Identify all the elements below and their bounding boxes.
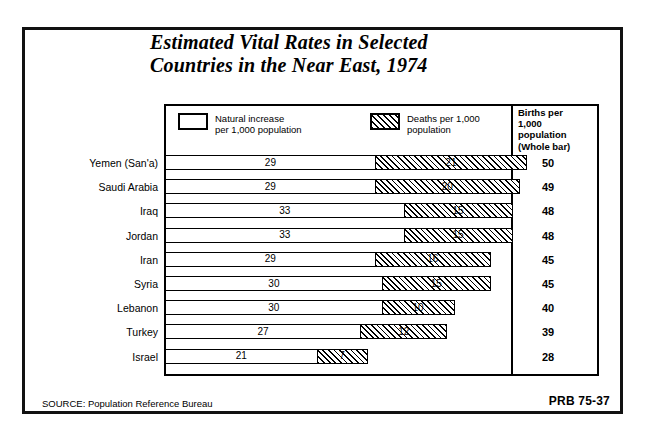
bar-segment-natural-increase: 29 — [166, 253, 375, 266]
bar-segment-deaths: 20 — [375, 180, 519, 193]
bar-value-natural-increase: 27 — [257, 327, 268, 337]
stacked-bar: 2916 — [165, 252, 491, 267]
births-value: 28 — [518, 346, 578, 368]
births-value: 48 — [518, 200, 578, 222]
bar-segment-natural-increase: 33 — [166, 229, 404, 242]
bar-segment-natural-increase: 29 — [166, 156, 375, 169]
stacked-bar: 3315 — [165, 203, 513, 218]
footer-source: SOURCE: Population Reference Bureau — [42, 398, 213, 409]
country-label: Syria — [55, 273, 158, 295]
bar-value-natural-increase: 29 — [265, 158, 276, 168]
bar-value-deaths: 21 — [444, 158, 457, 168]
bar-segment-deaths: 16 — [375, 253, 490, 266]
bar-value-natural-increase: 33 — [279, 206, 290, 216]
bar-value-natural-increase: 30 — [268, 303, 279, 313]
chart-rows: Yemen (San'a)292150Saudi Arabia292049Ira… — [0, 0, 647, 440]
bar-segment-deaths: 15 — [382, 277, 490, 290]
bar-value-natural-increase: 21 — [236, 351, 247, 361]
bar-value-deaths: 7 — [338, 351, 346, 361]
births-value: 48 — [518, 225, 578, 247]
footer-code: PRB 75-37 — [549, 394, 610, 408]
country-label: Iraq — [55, 200, 158, 222]
country-label: Israel — [55, 346, 158, 368]
bar-segment-natural-increase: 30 — [166, 301, 382, 314]
bar-segment-natural-increase: 33 — [166, 204, 404, 217]
bar-value-natural-increase: 33 — [279, 230, 290, 240]
bar-value-deaths: 15 — [451, 230, 464, 240]
stacked-bar: 2712 — [165, 324, 447, 339]
country-label: Iran — [55, 249, 158, 271]
bar-segment-deaths: 12 — [360, 325, 446, 338]
bar-value-deaths: 10 — [412, 303, 425, 313]
bar-value-deaths: 12 — [397, 327, 410, 337]
bar-segment-natural-increase: 27 — [166, 325, 360, 338]
bar-segment-deaths: 15 — [404, 229, 512, 242]
bar-value-deaths: 20 — [441, 182, 454, 192]
bar-value-natural-increase: 29 — [265, 182, 276, 192]
bar-value-natural-increase: 30 — [268, 279, 279, 289]
stacked-bar: 3315 — [165, 228, 513, 243]
stacked-bar: 3015 — [165, 276, 491, 291]
country-label: Saudi Arabia — [55, 176, 158, 198]
bar-segment-natural-increase: 21 — [166, 350, 317, 363]
country-label: Yemen (San'a) — [55, 152, 158, 174]
births-value: 49 — [518, 176, 578, 198]
bar-value-natural-increase: 29 — [265, 254, 276, 264]
bar-segment-natural-increase: 29 — [166, 180, 375, 193]
bar-value-deaths: 15 — [430, 279, 443, 289]
stacked-bar: 3010 — [165, 300, 455, 315]
bar-value-deaths: 16 — [426, 254, 439, 264]
births-value: 45 — [518, 273, 578, 295]
country-label: Lebanon — [55, 297, 158, 319]
births-value: 40 — [518, 297, 578, 319]
births-value: 50 — [518, 152, 578, 174]
bar-segment-deaths: 21 — [375, 156, 526, 169]
births-value: 39 — [518, 321, 578, 343]
stacked-bar: 217 — [165, 349, 368, 364]
stacked-bar: 2921 — [165, 155, 527, 170]
country-label: Jordan — [55, 225, 158, 247]
bar-segment-deaths: 10 — [382, 301, 454, 314]
bar-value-deaths: 15 — [451, 206, 464, 216]
chart-page: Estimated Vital Rates in Selected Countr… — [0, 0, 647, 440]
stacked-bar: 2920 — [165, 179, 520, 194]
bar-segment-natural-increase: 30 — [166, 277, 382, 290]
births-value: 45 — [518, 249, 578, 271]
country-label: Turkey — [55, 321, 158, 343]
bar-segment-deaths: 7 — [317, 350, 367, 363]
bar-segment-deaths: 15 — [404, 204, 512, 217]
